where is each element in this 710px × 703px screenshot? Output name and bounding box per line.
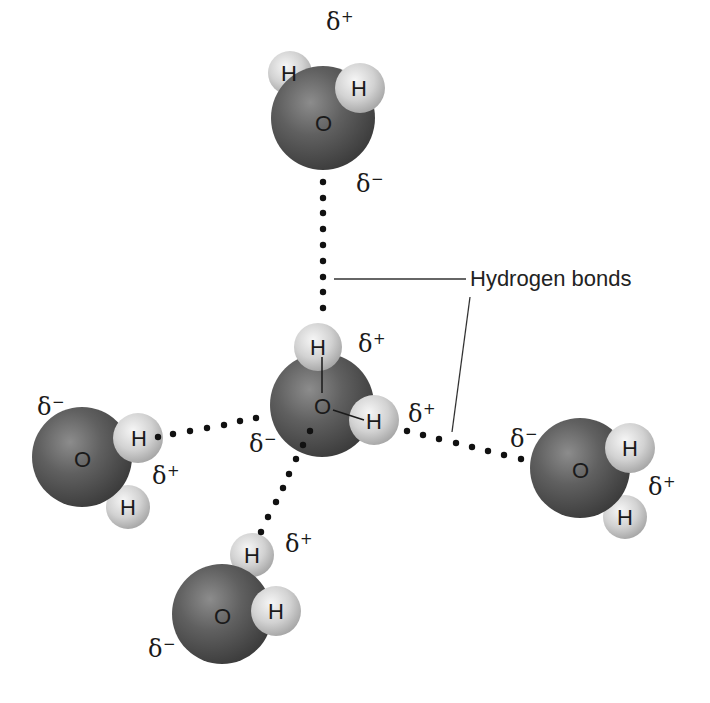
water-molecule-right: H O H δ − δ + [510,418,676,539]
bond-dot [320,226,326,232]
bond-dot [265,514,271,520]
bond-dot [300,442,306,448]
bond-dot [404,428,410,434]
hydrogen-bond-vertical [320,179,326,311]
bond-dot [420,432,426,438]
bond-dot [501,452,507,458]
water-molecule-left: H O H δ − δ + [32,393,180,529]
bond-dot [518,456,524,462]
water-molecule-center: H O H δ + δ + δ − [249,323,436,458]
bond-dot [320,242,326,248]
partial-negative-charge: δ [37,393,51,421]
bond-dot [237,418,243,424]
partial-negative-charge: δ [148,635,162,663]
hydrogen-label: H [622,436,638,461]
hydrogen-label: H [366,409,382,434]
hydrogen-label: H [244,543,260,568]
hydrogen-bond-right [404,428,524,462]
hydrogen-label: H [617,505,633,530]
oxygen-label: O [315,111,332,136]
bond-dot [187,428,193,434]
partial-positive-charge: δ [152,462,166,490]
hydrogen-bonds-label: Hydrogen bonds [470,266,631,291]
bond-dot [469,444,475,450]
charge-sign: − [52,393,65,411]
bond-dot [436,436,442,442]
partial-negative-charge: δ [356,170,370,198]
bond-dot [155,434,161,440]
bond-dot [320,274,326,280]
partial-positive-charge: δ [648,473,662,501]
water-molecule-bottom: H O H δ + δ − [148,530,313,664]
bond-dot [258,529,264,535]
bond-dot [253,415,259,421]
bond-dot [320,195,326,201]
bond-dot [221,422,227,428]
bond-dot [286,471,292,477]
charge-sign: + [423,400,436,418]
water-molecule-top: H H O δ + δ − [268,8,385,198]
bond-dot [320,210,326,216]
bond-dot [273,499,279,505]
bond-dot [485,448,491,454]
partial-positive-charge: δ [358,330,372,358]
hydrogen-label: H [131,426,147,451]
hydrogen-label: H [281,61,297,86]
charge-sign: + [373,330,386,348]
hydrogen-label: H [120,495,136,520]
bond-dot [320,289,326,295]
bond-dot [170,431,176,437]
water-hydrogen-bond-diagram: H H O δ + δ − H O H δ + δ + δ − H O H δ … [0,0,710,703]
hydrogen-label: H [310,335,326,360]
charge-sign: − [264,430,277,448]
bond-dot [320,305,326,311]
charge-sign: − [371,170,384,188]
partial-negative-charge: δ [510,425,524,453]
partial-positive-charge: δ [285,530,299,558]
charge-sign: − [525,425,538,443]
oxygen-label: O [314,394,331,419]
bond-dot [204,425,210,431]
callout-leader-line [452,297,470,432]
oxygen-label: O [214,604,231,629]
charge-sign: + [300,530,313,548]
charge-sign: + [167,462,180,480]
oxygen-label: O [74,447,91,472]
charge-sign: − [163,635,176,653]
hydrogen-label: H [268,599,284,624]
charge-sign: + [663,473,676,491]
bond-dot [453,440,459,446]
partial-negative-charge: δ [249,430,263,458]
hydrogen-label: H [351,76,367,101]
oxygen-label: O [572,458,589,483]
bond-dot [280,485,286,491]
bond-dot [293,456,299,462]
bond-dot [320,179,326,185]
charge-sign: + [341,8,354,26]
partial-positive-charge: δ [326,8,340,36]
hydrogen-bond-left [155,415,259,440]
partial-positive-charge: δ [408,400,422,428]
bond-dot [320,258,326,264]
bond-dot [307,428,313,434]
